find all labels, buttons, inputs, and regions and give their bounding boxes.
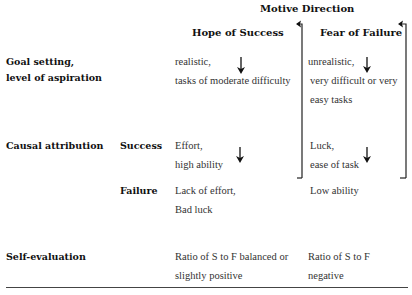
down-arrow-goal-hope-icon [237, 57, 245, 74]
down-arrow-goal-fear-icon [363, 57, 371, 73]
left-bracket [296, 21, 302, 179]
down-arrow-success-fear-icon [363, 147, 371, 163]
diagram-lines [0, 0, 412, 295]
down-arrow-success-hope-icon [236, 147, 244, 163]
right-bracket [398, 21, 406, 179]
